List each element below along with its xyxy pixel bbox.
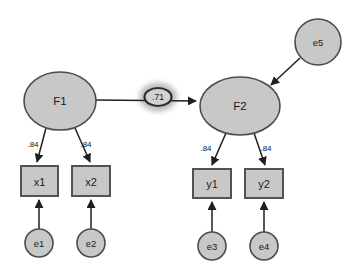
observed-indicator-x1-label: x1 xyxy=(34,176,46,188)
error-term-e4-label: e4 xyxy=(259,241,270,252)
error-term-e1-label: e1 xyxy=(34,238,45,249)
latent-factor-f2-label: F2 xyxy=(233,100,246,112)
observed-indicator-x2-label: x2 xyxy=(85,176,97,188)
path-f2-to-y1 xyxy=(212,133,226,165)
error-term-e5-label: e5 xyxy=(313,37,324,48)
sem-path-diagram: F1 F2 x1 x2 y1 y2 e1 e2 e3 e4 e5 .71 .84 xyxy=(0,0,359,280)
coefficient-f1-x2: .84 xyxy=(80,140,92,149)
path-e5-to-f2 xyxy=(271,58,300,85)
latent-factor-f1-label: F1 xyxy=(53,95,66,107)
coefficient-f2-y2: .84 xyxy=(260,144,272,153)
error-term-e3-label: e3 xyxy=(207,241,218,252)
diagram-canvas: F1 F2 x1 x2 y1 y2 e1 e2 e3 e4 e5 .71 .84 xyxy=(0,0,359,280)
structural-coefficient-highlight[interactable]: .71 xyxy=(143,87,173,108)
observed-indicator-y2-label: y2 xyxy=(258,178,270,190)
observed-indicator-y1-label: y1 xyxy=(206,178,218,190)
coefficient-f1-f2: .71 xyxy=(152,92,164,102)
coefficient-f1-x1: .84 xyxy=(27,140,39,149)
coefficient-f2-y1: .84 xyxy=(200,144,212,153)
error-term-e2-label: e2 xyxy=(86,238,97,249)
